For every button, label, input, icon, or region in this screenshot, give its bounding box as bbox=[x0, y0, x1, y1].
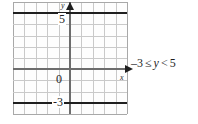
coordinate-grid-figure: y x 5 -3 0 –3≤y<5 bbox=[0, 0, 198, 124]
gridline-vertical bbox=[127, 2, 128, 114]
inequality-upper-value: 5 bbox=[170, 56, 176, 70]
inequality-variable: y bbox=[154, 56, 159, 70]
y-axis-arrow-icon bbox=[66, 2, 74, 10]
origin-label: 0 bbox=[56, 73, 62, 85]
boundary-line-y--3 bbox=[13, 102, 127, 104]
y-axis-label: y bbox=[61, 2, 65, 10]
gridline-horizontal bbox=[13, 114, 127, 115]
plot-area bbox=[13, 2, 127, 114]
x-axis-label: x bbox=[120, 74, 124, 82]
boundary-line-y-5 bbox=[13, 12, 127, 14]
inequality-lower-operator: ≤ bbox=[145, 56, 152, 70]
y-tick-label-5: 5 bbox=[58, 13, 66, 25]
y-tick-label-neg3: -3 bbox=[52, 96, 64, 108]
x-axis-arrow-icon bbox=[125, 65, 133, 73]
y-axis bbox=[69, 2, 71, 114]
inequality-annotation: –3≤y<5 bbox=[131, 57, 176, 69]
inequality-upper-operator: < bbox=[161, 56, 168, 70]
